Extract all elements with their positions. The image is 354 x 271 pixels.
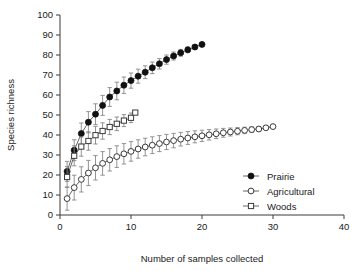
data-point: [228, 129, 234, 135]
data-point: [79, 144, 84, 149]
x-tick-label: 0: [57, 221, 62, 232]
data-point: [270, 124, 276, 130]
data-point: [100, 128, 105, 133]
chart-background: [0, 0, 354, 271]
data-point: [78, 131, 84, 137]
data-point: [178, 136, 184, 142]
data-point: [100, 102, 106, 108]
data-point: [121, 118, 126, 123]
data-point: [199, 133, 205, 139]
data-point: [149, 142, 155, 148]
data-point: [93, 165, 99, 171]
y-axis-title: Species richness: [5, 79, 16, 151]
y-tick-label: 50: [42, 109, 53, 120]
x-tick-label: 20: [197, 221, 208, 232]
data-point: [64, 196, 70, 202]
x-tick-label: 40: [339, 221, 350, 232]
data-point: [128, 149, 134, 155]
legend-marker: [248, 188, 254, 194]
legend-marker: [248, 173, 254, 179]
species-accumulation-chart: 0102030405060708090100 010203040 Number …: [0, 0, 354, 271]
data-point: [121, 82, 127, 88]
data-point: [71, 185, 77, 191]
data-point: [213, 131, 219, 137]
data-point: [185, 47, 191, 53]
data-point: [156, 61, 162, 67]
data-point: [249, 127, 255, 133]
data-point: [142, 144, 148, 150]
y-tick-label: 90: [42, 29, 53, 40]
legend-label: Prairie: [267, 171, 294, 182]
data-point: [85, 119, 91, 125]
data-point: [157, 141, 163, 147]
x-tick-label: 10: [126, 221, 137, 232]
data-point: [107, 157, 113, 163]
y-tick-label: 80: [42, 49, 53, 60]
data-point: [107, 94, 113, 100]
data-point: [242, 127, 248, 133]
data-point: [164, 57, 170, 63]
data-point: [220, 130, 226, 136]
data-point: [235, 128, 241, 134]
data-point: [164, 139, 170, 145]
legend-label: Woods: [267, 201, 297, 212]
data-point: [263, 125, 269, 131]
data-point: [86, 138, 91, 143]
y-tick-label: 40: [42, 129, 53, 140]
data-point: [171, 53, 177, 59]
data-point: [135, 146, 141, 152]
data-point: [199, 41, 205, 47]
data-point: [185, 135, 191, 141]
data-point: [78, 177, 84, 183]
legend-marker: [248, 203, 253, 208]
y-tick-label: 20: [42, 169, 53, 180]
data-point: [256, 126, 262, 132]
y-tick-label: 100: [37, 9, 53, 20]
y-tick-label: 60: [42, 89, 53, 100]
x-axis-title: Number of samples collected: [141, 253, 264, 264]
data-point: [178, 50, 184, 56]
data-point: [93, 111, 99, 117]
data-point: [142, 69, 148, 75]
y-tick-label: 0: [48, 209, 53, 220]
data-point: [192, 44, 198, 50]
data-point: [171, 138, 177, 144]
y-tick-label: 10: [42, 189, 53, 200]
chart-figure: 0102030405060708090100 010203040 Number …: [0, 0, 354, 271]
data-point: [149, 65, 155, 71]
data-point: [121, 151, 127, 157]
data-point: [206, 132, 212, 138]
data-point: [192, 134, 198, 140]
data-point: [114, 154, 120, 160]
data-point: [114, 88, 120, 94]
data-point: [107, 124, 112, 129]
data-point: [128, 78, 134, 84]
y-tick-label: 30: [42, 149, 53, 160]
data-point: [114, 121, 119, 126]
data-point: [133, 110, 138, 115]
data-point: [72, 153, 77, 158]
data-point: [93, 133, 98, 138]
legend-label: Agricultural: [267, 186, 315, 197]
data-point: [135, 73, 141, 79]
x-tick-label: 30: [268, 221, 279, 232]
data-point: [100, 161, 106, 167]
y-tick-label: 70: [42, 69, 53, 80]
data-point: [86, 170, 92, 176]
data-point: [128, 115, 133, 120]
data-point: [65, 174, 70, 179]
